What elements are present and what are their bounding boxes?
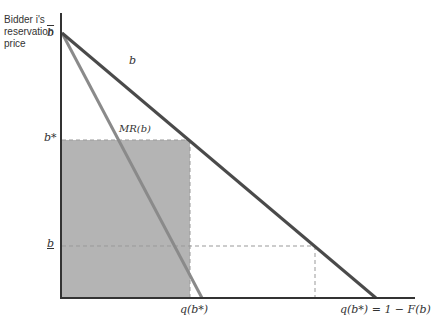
q-b-star-tick-label: q(b*) — [180, 303, 208, 316]
b-upper-tick-label: b — [47, 26, 54, 39]
q-equation-tick-label: q(b*) = 1 − F(b) — [340, 303, 431, 316]
y-axis-label-line-1: Bidder i's — [4, 14, 53, 26]
b-star-tick-label: b* — [44, 131, 57, 144]
b-lower-tick-label: b — [47, 237, 54, 250]
y-axis-label-line-3: price — [4, 38, 53, 50]
revenue-shaded-area — [62, 140, 190, 298]
mr-curve-label: MR(b) — [119, 123, 151, 134]
demand-curve-label: b — [129, 54, 136, 67]
auction-diagram — [0, 0, 432, 336]
